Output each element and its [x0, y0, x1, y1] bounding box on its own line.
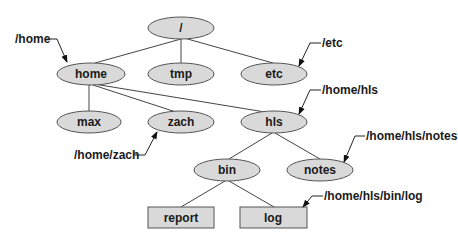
- path-label-notes: /home/hls/notes: [344, 129, 458, 162]
- edge-root-home: [95, 39, 181, 63]
- node-label-max: max: [77, 115, 101, 129]
- path-label-hls-text: /home/hls: [322, 83, 378, 97]
- pointer-arrow-icon: [299, 90, 321, 114]
- node-label-report: report: [164, 211, 199, 225]
- edge-hls-bin: [229, 133, 272, 159]
- node-label-notes: notes: [304, 163, 336, 177]
- path-label-notes-text: /home/hls/notes: [366, 129, 458, 143]
- node-log: log: [240, 207, 307, 228]
- directory-tree-diagram: / home tmp etc max zach hls bin notes re…: [0, 0, 458, 242]
- pointer-arrow-icon: [344, 136, 365, 162]
- path-label-log: /home/hls/bin/log: [303, 189, 423, 207]
- pointer-arrow-icon: [299, 43, 321, 66]
- path-label-home: /home: [15, 32, 67, 62]
- node-label-log: log: [264, 211, 282, 225]
- path-label-hls: /home/hls: [299, 83, 378, 114]
- node-label-hls: hls: [265, 115, 283, 129]
- node-notes: notes: [287, 159, 353, 181]
- node-label-etc: etc: [265, 67, 283, 81]
- path-label-etc-text: /etc: [322, 36, 343, 50]
- edge-bin-report: [181, 181, 225, 207]
- node-label-zach: zach: [168, 115, 195, 129]
- edge-root-etc: [184, 38, 273, 63]
- node-max: max: [57, 111, 121, 133]
- edge-hls-notes: [275, 133, 320, 159]
- node-home: home: [57, 63, 125, 85]
- node-bin: bin: [194, 159, 260, 181]
- edge-home-zach: [93, 85, 176, 112]
- node-hls: hls: [241, 111, 307, 133]
- node-label-home: home: [75, 67, 107, 81]
- node-root: /: [148, 17, 214, 39]
- path-label-log-text: /home/hls/bin/log: [324, 189, 423, 203]
- path-label-home-text: /home: [15, 32, 51, 46]
- node-label-bin: bin: [218, 163, 236, 177]
- node-zach: zach: [148, 111, 214, 133]
- node-etc: etc: [241, 63, 307, 85]
- path-label-zach: /home/zach: [74, 132, 157, 162]
- node-tmp: tmp: [148, 63, 214, 85]
- pointer-arrow-icon: [303, 196, 323, 207]
- node-report: report: [148, 207, 214, 228]
- edge-home-hls: [94, 84, 265, 112]
- path-label-etc: /etc: [299, 36, 343, 66]
- path-label-zach-text: /home/zach: [74, 148, 139, 162]
- node-label-tmp: tmp: [170, 67, 192, 81]
- edge-bin-log: [229, 181, 274, 207]
